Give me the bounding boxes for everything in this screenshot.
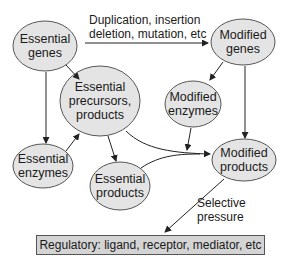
label-modified-products: Modified products bbox=[220, 146, 268, 174]
label-line: enzymes bbox=[18, 166, 69, 180]
arrow-precursors-to-products bbox=[108, 136, 116, 161]
label-line: genes bbox=[219, 42, 266, 56]
label-line: Duplication, insertion bbox=[89, 13, 206, 27]
label-line: Essential bbox=[18, 152, 69, 166]
label-line: Modified bbox=[220, 146, 268, 160]
label-line: precursors, bbox=[69, 94, 132, 108]
label-line: deletion, mutation, etc bbox=[89, 27, 206, 41]
label-essential-products: Essential products bbox=[95, 172, 146, 200]
label-modified-genes: Modified genes bbox=[219, 28, 266, 56]
label-line: products bbox=[220, 160, 268, 174]
label-line: Essential bbox=[69, 80, 132, 94]
label-essential-genes: Essential genes bbox=[20, 32, 71, 60]
label-line: Selective bbox=[197, 196, 246, 210]
mutation-label: Duplication, insertion deletion, mutatio… bbox=[89, 13, 206, 41]
label-essential-enzymes: Essential enzymes bbox=[18, 152, 69, 180]
label-line: Essential bbox=[20, 32, 71, 46]
arrow-modgenes-to-modenzymes bbox=[210, 62, 223, 80]
label-line: pressure bbox=[197, 210, 246, 224]
label-line: Modified bbox=[219, 28, 266, 42]
label-line: Modified bbox=[168, 90, 218, 104]
regulatory-box: Regulatory: ligand, receptor, mediator, … bbox=[36, 235, 265, 255]
arrow-enzymes-to-precursors bbox=[66, 134, 79, 151]
label-line: Essential bbox=[95, 172, 146, 186]
arrow-modenzymes-to-merge bbox=[187, 128, 191, 150]
arrow-precursors-to-modproducts bbox=[126, 131, 210, 154]
label-line: enzymes bbox=[168, 104, 218, 118]
label-essential-precursors: Essential precursors, products bbox=[69, 80, 132, 122]
selective-pressure-label: Selective pressure bbox=[197, 196, 246, 224]
label-line: products bbox=[95, 186, 146, 200]
label-line: genes bbox=[20, 46, 71, 60]
arrow-products-to-modproducts bbox=[141, 154, 200, 168]
label-modified-enzymes: Modified enzymes bbox=[168, 90, 218, 118]
label-line: products bbox=[69, 108, 132, 122]
